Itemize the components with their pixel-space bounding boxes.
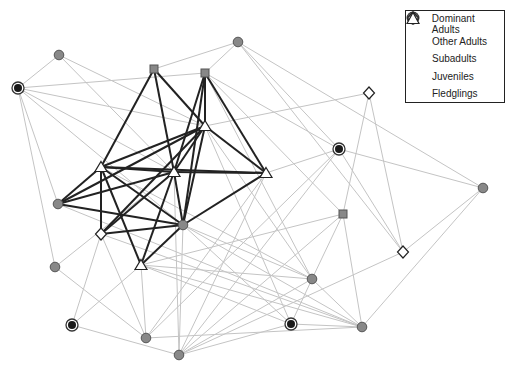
weak-edge (291, 279, 312, 324)
legend-label: Juveniles (432, 71, 474, 82)
node-adult (50, 262, 60, 272)
strong-edge (205, 73, 266, 173)
weak-edge (205, 73, 343, 214)
node-adult (53, 199, 63, 209)
node-adult (174, 350, 184, 360)
legend-label: Other Adults (432, 36, 487, 47)
legend-label: Fledglings (432, 88, 478, 99)
weak-edge (179, 149, 339, 355)
weak-edge (362, 188, 483, 327)
node-dominant (12, 82, 24, 94)
weak-edge (179, 324, 291, 355)
weak-edge (18, 88, 174, 172)
node-dominant (66, 319, 78, 331)
node-adult (178, 220, 188, 230)
strong-edge (58, 204, 183, 225)
strong-edge (183, 73, 205, 225)
weak-edge (339, 149, 403, 252)
node-subadult (150, 65, 158, 73)
node-dominant (285, 318, 297, 330)
other-adult-icon (412, 34, 426, 48)
legend-label: Dominant Adults (432, 13, 504, 35)
legend-item-other-adults: Other Adults (412, 33, 504, 51)
weak-edge (205, 126, 312, 279)
weak-edge (72, 265, 141, 325)
weak-edge (59, 55, 205, 126)
weak-edge (18, 73, 205, 88)
strong-edge (174, 73, 205, 172)
weak-edge (179, 279, 312, 355)
juvenile-diamond-icon (412, 69, 426, 83)
strong-edge (101, 69, 154, 167)
strong-edge (205, 126, 266, 173)
node-juvenile (364, 87, 375, 99)
weak-edge (183, 225, 291, 324)
weak-edge (72, 325, 179, 355)
weak-edge (238, 42, 339, 149)
weak-edge (339, 149, 483, 188)
weak-edge (238, 42, 403, 252)
subadult-square-icon (412, 52, 426, 66)
strong-edge (154, 69, 174, 172)
weak-edge (343, 214, 362, 327)
legend-item-fledglings: Fledglings (412, 85, 504, 103)
weak-edge (179, 225, 183, 355)
social-network-diagram: Dominant Adults Other Adults Subadults J… (0, 0, 515, 370)
weak-edge (266, 149, 339, 173)
weak-edge (18, 88, 55, 267)
weak-edge (154, 42, 238, 69)
legend-item-subadults: Subadults (412, 50, 504, 68)
node-adult (357, 322, 367, 332)
node-adult (54, 50, 64, 60)
weak-edge (58, 204, 362, 327)
weak-edge (312, 214, 343, 279)
legend: Dominant Adults Other Adults Subadults J… (405, 10, 505, 103)
legend-item-dominant: Dominant Adults (412, 15, 504, 33)
weak-edge (72, 234, 101, 325)
weak-edge (18, 55, 59, 88)
weak-edge (101, 234, 146, 338)
node-subadult (339, 210, 347, 218)
node-adult (307, 274, 317, 284)
legend-label: Subadults (432, 53, 476, 64)
strong-edge (174, 172, 266, 173)
node-adult (233, 37, 243, 47)
weak-edge (101, 234, 362, 327)
fledgling-triangle-icon (412, 87, 426, 101)
node-subadult (201, 69, 209, 77)
legend-item-juveniles: Juveniles (412, 68, 504, 86)
weak-edge (369, 93, 403, 252)
weak-edge (205, 42, 238, 73)
node-dominant (333, 143, 345, 155)
weak-edge (403, 188, 483, 252)
strong-edge (58, 126, 205, 204)
node-adult (141, 333, 151, 343)
node-adult (478, 183, 488, 193)
